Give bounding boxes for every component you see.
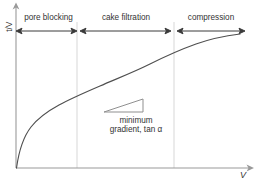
x-axis-label: V: [240, 170, 246, 180]
region-arrow-pore-blocking: [16, 28, 77, 34]
region-arrows: [16, 28, 245, 34]
minimum-gradient-annotation: minimum gradient, tan α: [96, 116, 176, 134]
region-label-pore-blocking: pore blocking: [20, 13, 77, 22]
region-arrow-cake-filtration: [80, 28, 171, 34]
chart-canvas: [0, 0, 262, 189]
x-axis: [16, 164, 254, 171]
region-label-compression: compression: [175, 13, 247, 22]
annotation-line-minimum: minimum: [96, 116, 176, 125]
y-axis-label: t/V: [5, 15, 14, 39]
annotation-line-gradient: gradient, tan α: [96, 125, 176, 134]
region-arrow-compression: [177, 28, 245, 34]
filtration-curve-figure: pore blocking cake filtration compressio…: [0, 0, 262, 189]
filtration-curve: [17, 34, 241, 168]
region-label-cake-filtration: cake filtration: [78, 13, 174, 22]
minimum-gradient-triangle: [104, 99, 143, 112]
region-separators: [77, 22, 174, 168]
